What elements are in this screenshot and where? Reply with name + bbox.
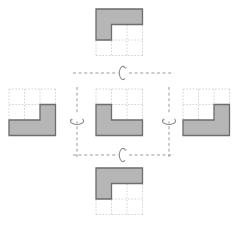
horizontal-mirror-axis-top <box>73 62 174 84</box>
l-shape-polygon <box>183 105 230 136</box>
shape-top <box>92 5 147 60</box>
l-shape-polygon <box>96 168 143 199</box>
l-shape-polygon <box>9 105 56 136</box>
shape-bottom <box>92 164 147 219</box>
l-shape-polygon <box>96 9 143 40</box>
horizontal-mirror-axis-bottom <box>73 144 174 166</box>
shape-center <box>92 85 147 140</box>
l-shape-polygon <box>96 105 143 136</box>
rotation-loop-icon <box>118 147 127 163</box>
shape-left <box>5 85 60 140</box>
shape-right <box>179 85 234 140</box>
transformation-figure <box>0 0 247 225</box>
rotation-loop-icon <box>118 65 127 81</box>
